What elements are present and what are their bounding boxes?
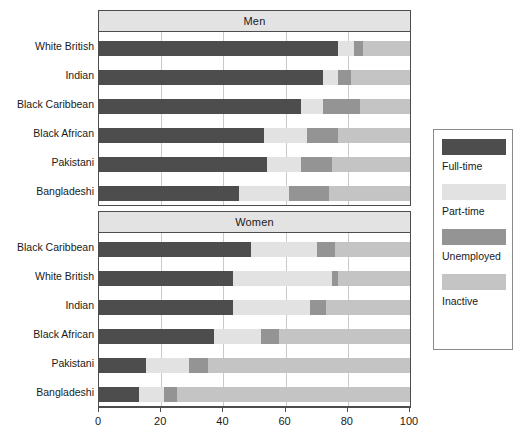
bar-segment-full-time	[99, 157, 267, 172]
bar-segment-full-time	[99, 70, 323, 85]
bar-segment-part-time	[264, 128, 308, 143]
y-tick-label: Black Caribbean	[0, 99, 94, 110]
x-tick-label: 60	[278, 415, 290, 427]
x-tick-label: 80	[341, 415, 353, 427]
y-tick-label: Black African	[0, 329, 94, 340]
bar-segment-inactive	[335, 242, 410, 257]
bar-row	[99, 387, 410, 402]
bar-segment-part-time	[239, 186, 289, 201]
y-tick-label: Black African	[0, 128, 94, 139]
legend-label-unemployed: Unemployed	[442, 250, 504, 262]
legend-label-part-time: Part-time	[442, 205, 504, 217]
x-tick-label: 40	[216, 415, 228, 427]
legend-swatch-inactive	[442, 274, 506, 290]
x-tick-label: 20	[154, 415, 166, 427]
bar-segment-part-time	[301, 99, 323, 114]
bar-segment-part-time	[139, 387, 164, 402]
bar-segment-unemployed	[354, 41, 363, 56]
bar-segment-unemployed	[317, 242, 336, 257]
bar-segment-full-time	[99, 99, 301, 114]
bar-segment-unemployed	[301, 157, 332, 172]
legend-label-inactive: Inactive	[442, 295, 504, 307]
plot-area-men	[99, 32, 410, 205]
bar-segment-full-time	[99, 271, 233, 286]
x-tick-40	[222, 407, 223, 412]
bar-segment-full-time	[99, 300, 233, 315]
bar-segment-inactive	[338, 128, 410, 143]
bar-segment-full-time	[99, 358, 146, 373]
y-tick-label: Black Caribbean	[0, 242, 94, 253]
bar-rows-men	[99, 32, 410, 205]
bar-segment-full-time	[99, 329, 214, 344]
legend: Full-timePart-timeUnemployedInactive	[433, 129, 513, 350]
legend-swatch-full-time	[442, 139, 506, 155]
bar-segment-unemployed	[289, 186, 329, 201]
bar-row	[99, 41, 410, 56]
bar-segment-unemployed	[189, 358, 208, 373]
y-tick-label: White British	[0, 271, 94, 282]
x-axis: 020406080100	[98, 407, 411, 447]
bar-segment-unemployed	[307, 128, 338, 143]
bar-segment-inactive	[332, 157, 410, 172]
bar-segment-unemployed	[164, 387, 176, 402]
y-tick-label: Bangladeshi	[0, 186, 94, 197]
x-axis-line	[98, 407, 411, 408]
bar-segment-inactive	[338, 271, 410, 286]
legend-label-full-time: Full-time	[442, 160, 504, 172]
y-tick-label: White British	[0, 41, 94, 52]
bar-segment-part-time	[233, 300, 311, 315]
bar-segment-part-time	[233, 271, 333, 286]
bar-segment-unemployed	[323, 99, 360, 114]
bar-rows-women	[99, 233, 410, 406]
bar-row	[99, 271, 410, 286]
bar-segment-part-time	[251, 242, 316, 257]
stacked-bar-chart: Men White BritishIndianBlack CaribbeanBl…	[0, 0, 522, 447]
bar-row	[99, 99, 410, 114]
bar-segment-full-time	[99, 242, 251, 257]
x-tick-20	[160, 407, 161, 412]
bar-row	[99, 329, 410, 344]
y-tick-label: Indian	[0, 300, 94, 311]
panel-strip-label-men: Men	[99, 11, 410, 32]
bar-segment-inactive	[351, 70, 410, 85]
legend-swatch-part-time	[442, 184, 506, 200]
x-tick-100	[409, 407, 410, 412]
x-tick-60	[285, 407, 286, 412]
plot-area-women	[99, 233, 410, 406]
bar-row	[99, 157, 410, 172]
y-tick-label: Indian	[0, 70, 94, 81]
bar-segment-unemployed	[338, 70, 350, 85]
bar-segment-part-time	[146, 358, 190, 373]
y-tick-label: Bangladeshi	[0, 387, 94, 398]
y-tick-label: Pakistani	[0, 358, 94, 369]
legend-swatch-unemployed	[442, 229, 506, 245]
x-tick-label: 0	[95, 415, 101, 427]
bar-segment-inactive	[329, 186, 410, 201]
panel-men: Men	[98, 10, 411, 206]
panel-strip-label-women: Women	[99, 212, 410, 233]
y-tick-label: Pakistani	[0, 157, 94, 168]
bar-segment-inactive	[326, 300, 410, 315]
bar-segment-part-time	[214, 329, 261, 344]
bar-row	[99, 186, 410, 201]
bar-segment-inactive	[177, 387, 410, 402]
bar-segment-inactive	[279, 329, 410, 344]
x-tick-0	[98, 407, 99, 412]
bar-segment-part-time	[323, 70, 339, 85]
panel-women: Women	[98, 211, 411, 407]
bar-segment-full-time	[99, 128, 264, 143]
bar-row	[99, 70, 410, 85]
bar-segment-unemployed	[310, 300, 326, 315]
bar-segment-inactive	[208, 358, 410, 373]
bar-segment-inactive	[363, 41, 410, 56]
bar-segment-part-time	[338, 41, 354, 56]
bar-segment-unemployed	[261, 329, 280, 344]
bar-segment-full-time	[99, 186, 239, 201]
bar-row	[99, 128, 410, 143]
bar-row	[99, 242, 410, 257]
bar-row	[99, 300, 410, 315]
bar-row	[99, 358, 410, 373]
bar-segment-full-time	[99, 387, 139, 402]
bar-segment-part-time	[267, 157, 301, 172]
bar-segment-inactive	[360, 99, 410, 114]
